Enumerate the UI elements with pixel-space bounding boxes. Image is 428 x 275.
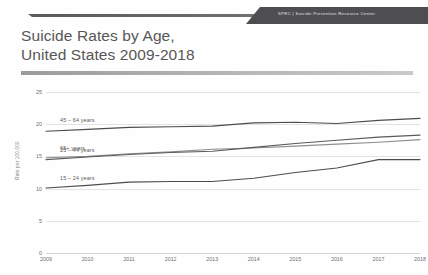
series-line-1: [46, 140, 420, 158]
page-title: Suicide Rates by Age, United States 2009…: [21, 26, 321, 64]
title-divider: [21, 71, 413, 75]
series-label-2: 25 – 44 years: [60, 147, 95, 153]
series-line-0: [46, 118, 420, 131]
series-line-2: [46, 135, 420, 159]
line-chart: Rate per 100,000 0510152025 200920102011…: [0, 80, 428, 275]
page-title-line-1: Suicide Rates by Age,: [21, 26, 321, 45]
sprc-brand-label: SPRC | Suicide Prevention Resource Cente…: [278, 11, 375, 16]
header-banner: SPRC | Suicide Prevention Resource Cente…: [246, 7, 428, 24]
slide-canvas: SPRC | Suicide Prevention Resource Cente…: [0, 0, 428, 275]
series-line-3: [46, 160, 420, 188]
page-title-line-2: United States 2009-2018: [21, 45, 321, 64]
series-label-3: 15 – 24 years: [60, 175, 95, 181]
series-label-0: 45 – 64 years: [60, 117, 95, 123]
